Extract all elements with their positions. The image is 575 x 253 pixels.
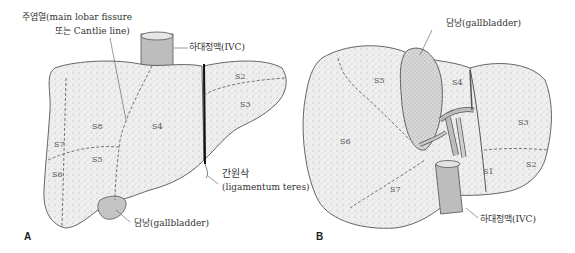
segment-label: S2 <box>235 72 246 81</box>
panel-a-liver <box>44 32 286 228</box>
segment-label: S5 <box>374 76 385 85</box>
segment-label: S8 <box>92 122 103 131</box>
segment-label: S4 <box>152 122 163 131</box>
segment-label: S6 <box>52 170 63 179</box>
liver-segment-figure: 주엽열(main lobar fissure 또는 Cantlie line) … <box>0 0 575 253</box>
main-lobar-fissure-label-line1: 주엽열(main lobar fissure <box>22 12 132 23</box>
ligamentum-teres-label-line2: (ligamentum teres) <box>222 182 310 193</box>
ligamentum-teres-label-line1: 간원삭 <box>222 168 249 179</box>
segment-label: S7 <box>390 185 401 194</box>
main-lobar-fissure-label-line2: 또는 Cantlie line) <box>55 26 130 37</box>
segment-label: S3 <box>518 118 529 127</box>
ivc-label-a: 하대정맥(IVC) <box>189 42 245 53</box>
segment-label: S7 <box>54 140 65 149</box>
segment-label: S2 <box>526 160 537 169</box>
segment-label: S4 <box>452 78 463 87</box>
panel-b-liver <box>303 30 551 228</box>
gallbladder-label-a: 담낭(gallbladder) <box>134 218 209 229</box>
panel-letter-b: B <box>316 231 323 242</box>
segment-label: S5 <box>92 155 103 164</box>
gallbladder-label-b: 담낭(gallbladder) <box>446 18 521 29</box>
panel-letter-a: A <box>24 231 31 242</box>
segment-label: S3 <box>240 100 251 109</box>
ivc-label-b: 하대정맥(IVC) <box>480 214 536 225</box>
segment-label: S6 <box>340 137 351 146</box>
segment-label: S1 <box>483 167 494 176</box>
